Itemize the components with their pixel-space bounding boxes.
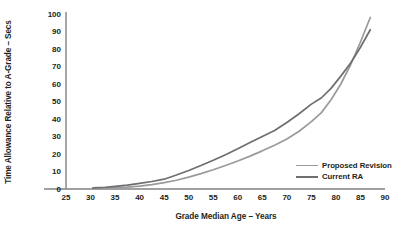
x-tick-90: 90 — [373, 193, 397, 202]
x-tick-70: 70 — [275, 193, 299, 202]
chart-figure: Time Allowance Relative to A-Grade – Sec… — [0, 0, 405, 238]
legend-label-proposed-revision: Proposed Revision — [322, 161, 392, 170]
x-tick-60: 60 — [226, 193, 250, 202]
y-tick-50: 50 — [37, 97, 61, 106]
x-tick-30: 30 — [79, 193, 103, 202]
legend-label-current-ra: Current RA — [322, 172, 363, 181]
y-tick-80: 80 — [37, 45, 61, 54]
x-tick-55: 55 — [201, 193, 225, 202]
x-tick-35: 35 — [103, 193, 127, 202]
x-tick-25: 25 — [54, 193, 78, 202]
x-tick-75: 75 — [299, 193, 323, 202]
x-tick-40: 40 — [128, 193, 152, 202]
y-tick-90: 90 — [37, 27, 61, 36]
x-axis-title: Grade Median Age – Years — [66, 212, 386, 221]
y-tick-30: 30 — [37, 132, 61, 141]
y-axis-title: Time Allowance Relative to A-Grade – Sec… — [2, 7, 16, 197]
legend-swatch-current-ra — [296, 176, 318, 178]
x-tick-85: 85 — [348, 193, 372, 202]
legend-swatch-proposed-revision — [296, 165, 318, 166]
y-tick-70: 70 — [37, 62, 61, 71]
x-tick-80: 80 — [324, 193, 348, 202]
y-tick-40: 40 — [37, 115, 61, 124]
y-tick-20: 20 — [37, 150, 61, 159]
y-tick-100: 100 — [37, 10, 61, 19]
x-tick-45: 45 — [152, 193, 176, 202]
y-tick-60: 60 — [37, 80, 61, 89]
x-tick-65: 65 — [250, 193, 274, 202]
chart-legend: Proposed Revision Current RA — [296, 160, 392, 182]
x-tick-50: 50 — [177, 193, 201, 202]
legend-item-proposed-revision: Proposed Revision — [296, 160, 392, 171]
y-tick-10: 10 — [37, 167, 61, 176]
legend-item-current-ra: Current RA — [296, 171, 392, 182]
